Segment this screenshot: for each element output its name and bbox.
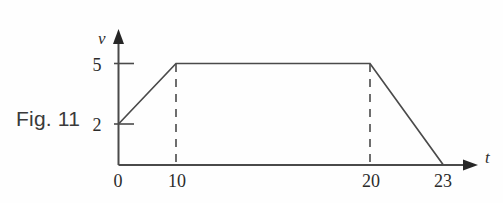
x-tick-label-0: 0 xyxy=(114,171,123,191)
y-axis-label: v xyxy=(98,29,106,48)
figure-screenshot: Fig. 11 v t 5 2 0 10 20 23 xyxy=(0,0,503,203)
x-tick-label-10: 10 xyxy=(168,171,186,191)
x-axis-arrowhead xyxy=(463,160,478,171)
velocity-time-graph: v t 5 2 0 10 20 23 xyxy=(0,0,503,203)
velocity-trace xyxy=(119,64,444,165)
y-tick-label-2: 2 xyxy=(93,115,102,135)
x-axis-label: t xyxy=(485,148,491,167)
y-tick-label-5: 5 xyxy=(93,55,102,75)
y-axis-arrowhead xyxy=(113,29,124,44)
x-tick-label-23: 23 xyxy=(434,171,452,191)
x-tick-label-20: 20 xyxy=(362,171,380,191)
